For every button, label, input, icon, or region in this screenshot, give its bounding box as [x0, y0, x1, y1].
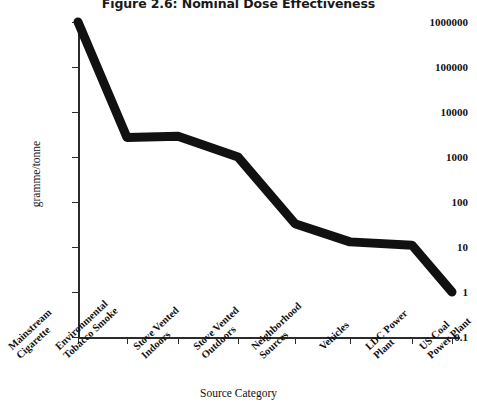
x-tick-label-line1: Vehicles	[317, 319, 351, 352]
y-tick-label: 10000	[405, 106, 477, 118]
figure-container: Figure 2.6: Nominal Dose Effectiveness 1…	[0, 0, 477, 405]
x-tick	[238, 337, 239, 344]
x-tick	[412, 337, 413, 344]
x-tick-label: Stove Vented Indoors	[131, 304, 189, 360]
y-tick-label: 1	[405, 286, 477, 298]
x-tick	[127, 337, 128, 344]
x-tick-label: Vehicles	[317, 319, 351, 352]
x-tick-label: Stove Vented Outdoors	[191, 304, 249, 360]
x-tick-label: Environmental Tobacco Smoke	[53, 296, 120, 361]
x-tick	[295, 337, 296, 344]
chart-title: Figure 2.6: Nominal Dose Effectiveness	[0, 0, 477, 11]
y-tick	[72, 247, 79, 248]
y-tick-label: 100	[405, 196, 477, 208]
y-tick-label: 1000	[405, 151, 477, 163]
y-tick-label: 100000	[405, 61, 477, 73]
y-axis-title: gramme/tonne	[30, 114, 42, 234]
x-axis-title: Source Category	[0, 387, 477, 399]
y-tick-label: 1000000	[405, 16, 477, 28]
x-tick	[350, 337, 351, 344]
x-tick-label: Mainstream Cigarette	[6, 307, 62, 361]
y-tick	[72, 292, 79, 293]
y-tick	[72, 157, 79, 158]
x-tick-label: Neighborhood Sources	[249, 300, 312, 361]
y-tick	[72, 112, 79, 113]
y-tick	[72, 202, 79, 203]
y-tick-label: 10	[405, 241, 477, 253]
x-tick	[178, 337, 179, 344]
y-tick	[72, 67, 79, 68]
y-tick	[72, 22, 79, 23]
